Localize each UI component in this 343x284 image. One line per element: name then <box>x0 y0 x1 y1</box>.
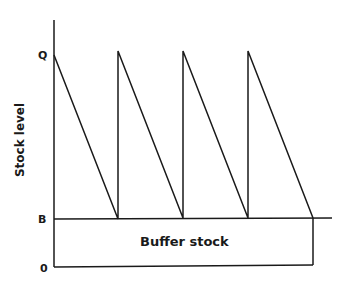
buffer-line <box>54 218 332 219</box>
y-axis-label: Stock level <box>13 103 27 177</box>
zero-line <box>54 265 313 267</box>
buffer-stock-label: Buffer stock <box>140 234 229 249</box>
b-label: B <box>38 213 46 226</box>
q-label: Q <box>38 49 47 62</box>
zero-label: 0 <box>40 262 48 275</box>
inventory-diagram: Q B 0 Buffer stock Stock level <box>0 0 343 284</box>
sawtooth-line <box>54 51 313 219</box>
